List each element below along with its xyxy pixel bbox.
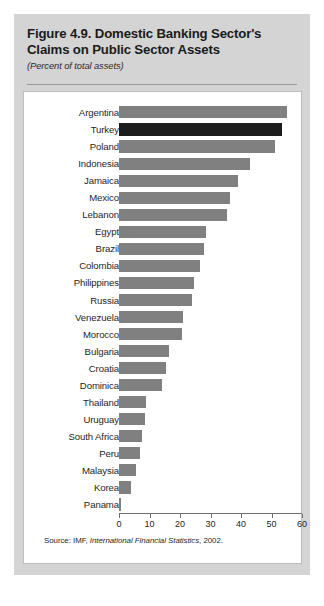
x-axis-tick-label: 60 [297, 519, 307, 529]
x-axis-tick-label: 20 [175, 519, 185, 529]
bar-value [119, 260, 200, 272]
bar-value [119, 277, 194, 289]
bar-category-label: South Africa [68, 428, 119, 445]
bar-value [119, 106, 287, 118]
bar-category-label: Poland [90, 138, 119, 155]
bar-row: Colombia [24, 257, 303, 274]
bar-value [119, 243, 204, 255]
bar-category-label: Venezuela [75, 309, 119, 326]
bar-value [119, 209, 227, 221]
bar-row: Bulgaria [24, 343, 303, 360]
bar-row: Jamaica [24, 172, 303, 189]
bar-row: Peru [24, 445, 303, 462]
bar-row: Dominica [24, 377, 303, 394]
bar-row: Uruguay [24, 411, 303, 428]
source-suffix: , 2002. [199, 536, 223, 545]
bar-category-label: Colombia [79, 257, 119, 274]
chart-plot-card: ArgentinaTurkeyPolandIndonesiaJamaicaMex… [23, 91, 302, 564]
bar-row: Venezuela [24, 309, 303, 326]
bar-category-label: Uruguay [83, 411, 119, 428]
bar-category-label: Panama [84, 496, 119, 513]
bar-value [119, 430, 142, 442]
figure-panel: Figure 4.9. Domestic Banking Sector's Cl… [14, 14, 310, 575]
bar-value [119, 481, 131, 493]
bar-category-label: Philippines [74, 274, 119, 291]
bar-value [119, 311, 183, 323]
bar-value [119, 447, 140, 459]
bar-category-label: Indonesia [78, 155, 119, 172]
bar-row: South Africa [24, 428, 303, 445]
bar-value [119, 328, 182, 340]
bar-category-label: Egypt [95, 223, 119, 240]
bar-category-label: Russia [90, 292, 119, 309]
x-axis-tick-label: 30 [205, 519, 215, 529]
x-axis-tick [119, 514, 120, 518]
source-prefix: Source: IMF, [44, 536, 90, 545]
bar-value [119, 396, 146, 408]
page-title: Figure 4.9. Domestic Banking Sector's Cl… [27, 26, 299, 57]
source-note: Source: IMF, International Financial Sta… [44, 536, 223, 545]
bar-row: Panama [24, 496, 303, 513]
bar-category-label: Bulgaria [85, 343, 119, 360]
bar-value [119, 362, 166, 374]
bar-row: Brazil [24, 240, 303, 257]
bar-chart: ArgentinaTurkeyPolandIndonesiaJamaicaMex… [24, 92, 303, 565]
x-axis-tick [150, 514, 151, 518]
x-axis-tick [302, 514, 303, 518]
bar-category-label: Croatia [89, 360, 119, 377]
x-axis-tick [241, 514, 242, 518]
bar-value [119, 175, 238, 187]
x-axis-tick [211, 514, 212, 518]
bar-category-label: Dominica [80, 377, 119, 394]
bar-category-label: Jamaica [84, 172, 119, 189]
bar-row: Thailand [24, 394, 303, 411]
source-publication: International Financial Statistics [90, 536, 199, 545]
bar-category-label: Mexico [89, 189, 119, 206]
bar-value [119, 192, 230, 204]
x-axis-tick-label: 50 [266, 519, 276, 529]
bar-row: Korea [24, 479, 303, 496]
bar-rows: ArgentinaTurkeyPolandIndonesiaJamaicaMex… [24, 104, 303, 513]
x-axis-tick-label: 10 [144, 519, 154, 529]
x-axis-tick [180, 514, 181, 518]
bar-value [119, 379, 162, 391]
x-axis-tick-label: 40 [236, 519, 246, 529]
bar-value [119, 140, 275, 152]
bar-value [119, 498, 121, 510]
bar-value [119, 464, 136, 476]
bar-category-label: Argentina [79, 104, 119, 121]
bar-category-label: Malaysia [82, 462, 119, 479]
bar-row: Russia [24, 292, 303, 309]
bar-category-label: Brazil [96, 240, 119, 257]
bar-category-label: Thailand [83, 394, 119, 411]
bar-row: Poland [24, 138, 303, 155]
bar-category-label: Korea [94, 479, 119, 496]
bar-row: Indonesia [24, 155, 303, 172]
bar-value [119, 123, 282, 135]
bar-row: Mexico [24, 189, 303, 206]
x-axis-tick [272, 514, 273, 518]
bar-category-label: Lebanon [82, 206, 119, 223]
bar-row: Morocco [24, 326, 303, 343]
figure-header: Figure 4.9. Domestic Banking Sector's Cl… [27, 26, 299, 71]
header-divider [27, 84, 297, 85]
bar-category-label: Turkey [91, 121, 119, 138]
bar-row: Turkey [24, 121, 303, 138]
bar-value [119, 158, 250, 170]
bar-row: Malaysia [24, 462, 303, 479]
bar-value [119, 413, 145, 425]
bar-row: Lebanon [24, 206, 303, 223]
bar-value [119, 294, 192, 306]
x-axis-tick-label: 0 [116, 519, 121, 529]
figure-subtitle: (Percent of total assets) [27, 60, 299, 71]
bar-category-label: Peru [99, 445, 119, 462]
bar-category-label: Morocco [83, 326, 119, 343]
bar-row: Philippines [24, 274, 303, 291]
bar-row: Argentina [24, 104, 303, 121]
bar-value [119, 345, 169, 357]
bar-row: Egypt [24, 223, 303, 240]
bar-value [119, 226, 206, 238]
bar-row: Croatia [24, 360, 303, 377]
